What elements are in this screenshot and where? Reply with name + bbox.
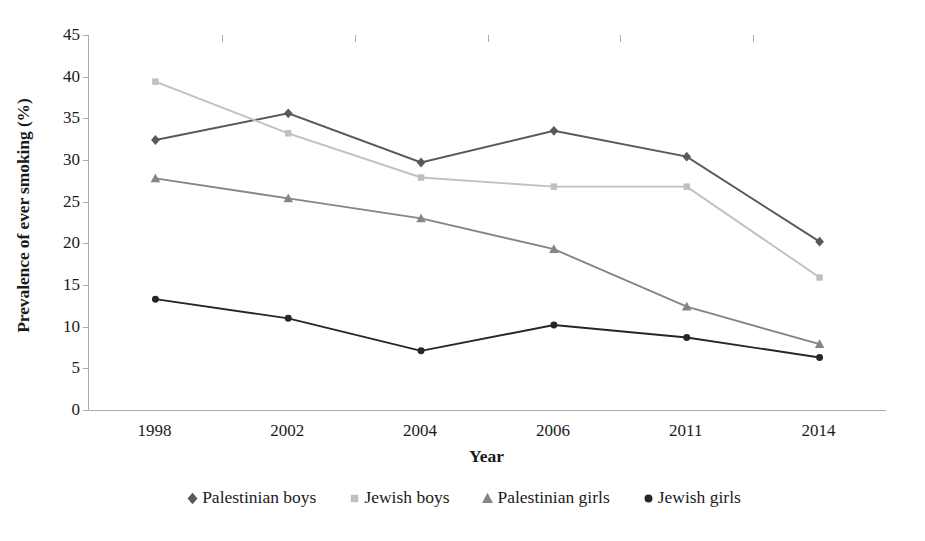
legend-item-palestinian-girls[interactable]: Palestinian girls [479, 487, 609, 508]
data-point-circle [285, 315, 292, 322]
legend-item-jewish-boys[interactable]: Jewish boys [346, 487, 449, 508]
y-axis-tick-labels: 051015202530354045 [46, 28, 86, 418]
data-point-diamond [815, 237, 824, 247]
data-point-diamond [417, 158, 426, 168]
series-jewish-girls [152, 296, 823, 361]
y-tick-label: 30 [63, 150, 80, 170]
data-point-square [152, 78, 158, 84]
data-point-square [418, 174, 424, 180]
y-tick-mark [83, 327, 89, 328]
legend-item-palestinian-boys[interactable]: Palestinian boys [184, 487, 316, 508]
y-tick-mark [83, 285, 89, 286]
triangle-marker-icon [479, 489, 496, 506]
data-point-square [285, 130, 291, 136]
x-tick-label: 2004 [403, 421, 437, 441]
y-tick-label: 10 [63, 317, 80, 337]
x-tick-label: 2006 [536, 421, 570, 441]
chart-figure: Prevalence of ever smoking (%) 051015202… [0, 0, 925, 541]
chart-plot-svg [89, 35, 886, 410]
legend-label: Jewish girls [658, 487, 741, 508]
series-line [155, 299, 819, 357]
y-tick-mark [83, 368, 89, 369]
data-point-circle [816, 354, 823, 361]
y-tick-mark [83, 160, 89, 161]
x-axis-title: Year [88, 446, 885, 467]
y-tick-mark [83, 243, 89, 244]
legend-label: Jewish boys [364, 487, 449, 508]
x-tick-mark [355, 35, 356, 42]
data-point-diamond [550, 126, 559, 136]
data-point-triangle [151, 173, 161, 182]
y-tick-mark [83, 202, 89, 203]
data-point-circle [418, 347, 425, 354]
circle-marker-icon [640, 489, 657, 506]
y-tick-mark [83, 77, 89, 78]
data-point-diamond [151, 135, 160, 145]
y-tick-label: 45 [63, 25, 80, 45]
x-tick-mark [222, 35, 223, 42]
x-tick-mark [620, 35, 621, 42]
data-point-circle [152, 296, 159, 303]
x-tick-mark [488, 35, 489, 42]
y-tick-label: 25 [63, 192, 80, 212]
y-tick-mark [83, 410, 89, 411]
data-point-diamond [284, 108, 293, 118]
legend-item-jewish-girls[interactable]: Jewish girls [640, 487, 741, 508]
x-tick-label: 2011 [669, 421, 702, 441]
series-line [155, 113, 819, 241]
x-tick-mark [753, 35, 754, 42]
diamond-marker-icon [184, 489, 201, 506]
x-axis-tick-labels: 199820022004200620112014 [88, 419, 885, 445]
data-point-square [816, 274, 822, 280]
data-point-square [551, 183, 557, 189]
y-tick-label: 5 [72, 358, 81, 378]
series-palestinian-boys [151, 108, 824, 246]
y-axis-title-text: Prevalence of ever smoking (%) [13, 98, 34, 333]
plot-area [88, 35, 886, 411]
legend-label: Palestinian boys [202, 487, 316, 508]
y-tick-label: 40 [63, 67, 80, 87]
data-point-circle [683, 334, 690, 341]
y-tick-mark [83, 35, 89, 36]
y-tick-label: 20 [63, 233, 80, 253]
series-line [155, 178, 819, 344]
x-tick-label: 2002 [270, 421, 304, 441]
data-point-square [684, 183, 690, 189]
y-tick-label: 35 [63, 108, 80, 128]
data-point-circle [550, 322, 557, 329]
y-tick-label: 0 [72, 400, 81, 420]
y-tick-mark [83, 118, 89, 119]
series-line [155, 82, 819, 278]
chart-legend: Palestinian boysJewish boysPalestinian g… [0, 487, 925, 508]
x-tick-label: 1998 [137, 421, 171, 441]
y-tick-label: 15 [63, 275, 80, 295]
x-tick-label: 2014 [802, 421, 836, 441]
series-palestinian-girls [151, 173, 825, 348]
data-point-diamond [682, 152, 691, 162]
y-axis-title: Prevalence of ever smoking (%) [0, 0, 46, 430]
legend-label: Palestinian girls [497, 487, 609, 508]
square-marker-icon [346, 489, 363, 506]
